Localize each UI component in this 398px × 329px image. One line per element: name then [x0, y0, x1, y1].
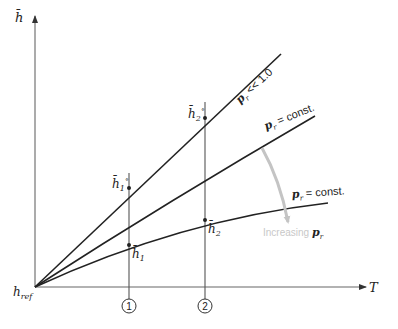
y-axis-label: h̄: [15, 9, 23, 25]
point-h1: [127, 243, 131, 247]
svg-text:1: 1: [126, 301, 132, 312]
point-h1-star: [127, 186, 131, 190]
x-axis-label: T: [369, 280, 379, 295]
label-h1-star: h̄1∘: [112, 175, 129, 193]
label-curve-ideal: pr << 1.0: [233, 66, 276, 108]
enthalpy-temperature-diagram: h̄ T href 1 2 h̄1∘ h̄2∘ h̄1 h̄2 pr << 1.…: [0, 0, 398, 329]
origin-label: href: [13, 285, 34, 301]
point-h2: [203, 218, 207, 222]
label-curve-mid: pr = const.: [262, 101, 317, 135]
state-1-marker: 1: [122, 299, 136, 313]
label-h1: h̄1: [132, 245, 145, 263]
svg-text:2: 2: [202, 301, 208, 312]
label-curve-low: pr = const.: [291, 184, 345, 203]
curve-mid-pressure: [35, 116, 315, 287]
label-h2-star: h̄2∘: [188, 105, 205, 123]
increasing-pressure-label: Increasing pr: [263, 226, 324, 241]
point-h2-star: [203, 116, 207, 120]
state-2-marker: 2: [198, 299, 212, 313]
